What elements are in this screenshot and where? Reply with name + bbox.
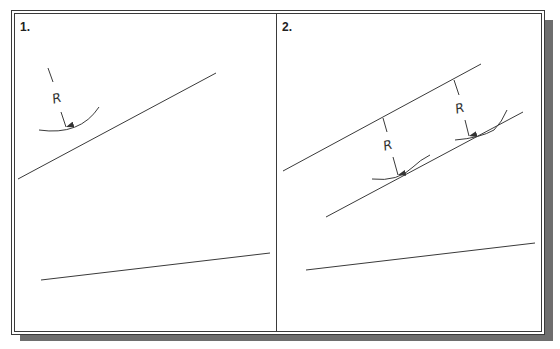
panel-1-radius-leader xyxy=(48,68,53,82)
panel-2-arc-1 xyxy=(372,155,430,180)
panel-2-radius-leader-1 xyxy=(383,118,387,132)
panel-2-radius-leader-2 xyxy=(454,80,459,95)
panel-1-arc xyxy=(39,107,99,131)
panel-2-radius-arrow-2 xyxy=(465,120,469,136)
panel-1-bottom-line xyxy=(41,253,270,280)
panel-2-offset-line xyxy=(326,112,523,217)
panel-2-radius-label-2: R xyxy=(453,100,466,117)
panel-1-radius-label: R xyxy=(50,90,63,107)
panel-2-drawing xyxy=(283,64,535,270)
panel-1-radius-arrow xyxy=(61,112,66,127)
construction-drawing: R R R xyxy=(0,0,560,349)
panel-2-top-line xyxy=(283,64,481,171)
panel-2-radius-arrow-1 xyxy=(393,157,398,175)
panel-2-radius-label-1: R xyxy=(381,137,394,154)
panel-2-bottom-line xyxy=(306,243,535,270)
panel-1-slanted-line xyxy=(18,73,216,179)
